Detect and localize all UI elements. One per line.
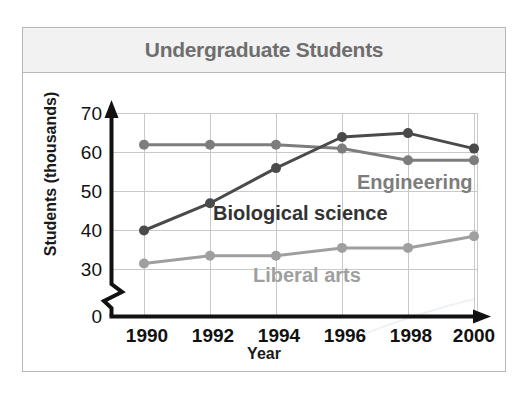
page-title: Undergraduate Students [145,38,383,62]
data-point [403,128,413,138]
y-axis-title: Students (thousands) [42,84,60,264]
data-point [205,251,215,261]
series-label-engineering: Engineering [357,171,473,193]
data-point [271,163,281,173]
x-tick-label-1998: 1998 [390,325,432,346]
series-line-liberal-arts [144,236,474,263]
x-tick-label-2000: 2000 [453,325,495,346]
y-tick-label-50: 50 [81,181,102,202]
data-point [271,140,281,150]
x-axis-arrowhead [473,310,491,324]
y-tick-label-0: 0 [91,306,102,327]
x-tick-label-1990: 1990 [126,325,168,346]
data-point [403,155,413,165]
data-point [337,132,347,142]
y-tick-label-40: 40 [81,220,102,241]
chart-title-band: Undergraduate Students [23,28,505,73]
data-point [271,251,281,261]
y-tick-labels: 70 60 50 40 30 0 [81,103,102,327]
series-liberal-arts [139,231,479,268]
x-axis-title: Year [23,345,505,363]
y-tick-label-30: 30 [81,259,102,280]
chart-card: Undergraduate Students [22,27,506,372]
data-point [139,140,149,150]
data-point [403,243,413,253]
series-label-biological-science: Biological science [213,202,388,224]
line-chart: 70 60 50 40 30 0 1990 1992 1994 1996 199… [23,73,507,373]
x-tick-labels: 1990 1992 1994 1996 1998 2000 [126,325,495,346]
data-point [139,259,149,269]
data-point [469,144,479,154]
y-axis-break-icon [104,278,122,316]
x-tick-label-1994: 1994 [258,325,301,346]
data-point [337,243,347,253]
data-point [205,140,215,150]
y-tick-label-70: 70 [81,103,102,124]
x-tick-label-1996: 1996 [324,325,366,346]
y-axis-arrowhead [105,100,119,118]
data-point [469,231,479,241]
data-point [139,226,149,236]
data-point [337,144,347,154]
data-point [469,155,479,165]
x-tick-label-1992: 1992 [192,325,234,346]
series-markers-liberal-arts [139,231,479,268]
series-label-liberal-arts: Liberal arts [253,264,361,286]
y-tick-label-60: 60 [81,142,102,163]
plot-area: 70 60 50 40 30 0 1990 1992 1994 1996 199… [23,73,505,371]
